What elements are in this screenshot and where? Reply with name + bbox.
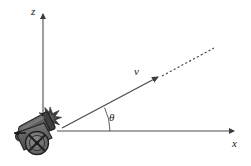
cannon-group [12, 107, 62, 155]
velocity-label: v [134, 65, 139, 77]
z-axis-label: z [30, 5, 36, 17]
angle-group: θ [105, 108, 115, 131]
velocity-vector-group: v [62, 48, 214, 128]
cannon-wheel [26, 132, 49, 155]
trajectory-dashed-line [162, 48, 214, 76]
projectile-diagram-figure: z x θ v [0, 0, 251, 166]
x-axis-label: x [231, 137, 237, 149]
angle-theta-label: θ [109, 111, 115, 123]
diagram-canvas: z x θ v [0, 0, 251, 166]
axes-group: z x [30, 5, 237, 149]
